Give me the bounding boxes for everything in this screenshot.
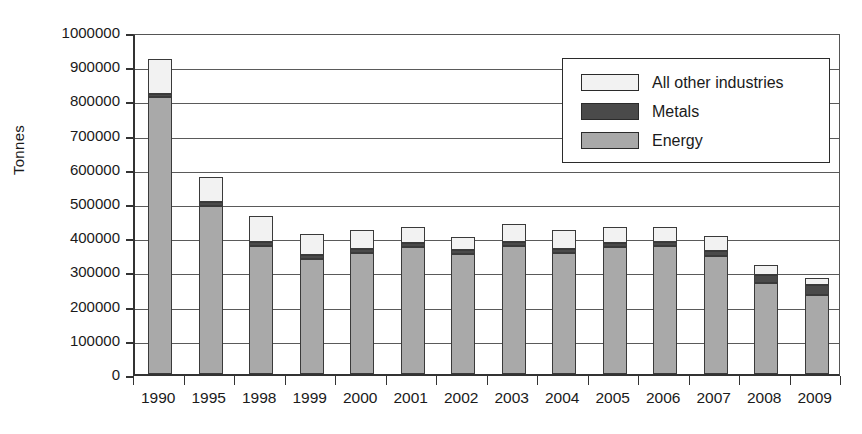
legend-item-metals[interactable]: Metals [581, 97, 829, 126]
bar-segment-energy [350, 253, 374, 374]
x-tick-label-2007: 2007 [689, 389, 740, 407]
x-tick-label-1998: 1998 [234, 389, 285, 407]
bar-segment-metals [350, 249, 374, 253]
bar-segment-all-other-industries [249, 216, 273, 242]
bar-segment-energy [603, 247, 627, 374]
bar-segment-metals [603, 243, 627, 247]
x-tick-mark [285, 376, 286, 385]
x-tick-label-1995: 1995 [184, 389, 235, 407]
bar-segment-all-other-industries [350, 230, 374, 248]
y-tick-mark [126, 205, 133, 207]
x-tick-label-2000: 2000 [335, 389, 386, 407]
x-tick-mark [537, 376, 538, 385]
x-tick-mark [790, 376, 791, 385]
gridline [135, 240, 839, 241]
y-tick-mark [126, 273, 133, 275]
x-tick-label-2002: 2002 [436, 389, 487, 407]
x-tick-mark [689, 376, 690, 385]
x-tick-label-2009: 2009 [790, 389, 841, 407]
y-tick-mark [126, 342, 133, 344]
bar-segment-metals [300, 255, 324, 259]
bar-segment-energy [552, 253, 576, 374]
y-tick-label: 0 [0, 366, 120, 383]
bar-2002 [451, 32, 475, 374]
y-tick-mark [126, 376, 133, 378]
bar-2003 [502, 32, 526, 374]
y-tick-mark [126, 68, 133, 70]
bar-segment-all-other-industries [148, 59, 172, 93]
gridline [135, 343, 839, 344]
bar-segment-all-other-industries [199, 177, 223, 202]
gridline [135, 274, 839, 275]
y-tick-label: 1000000 [0, 24, 120, 41]
bar-segment-energy [704, 256, 728, 374]
x-tick-mark [133, 376, 134, 385]
bar-segment-metals [754, 275, 778, 284]
x-tick-mark [436, 376, 437, 385]
bar-2001 [401, 32, 425, 374]
y-tick-label: 300000 [0, 263, 120, 280]
bar-1990 [148, 32, 172, 374]
legend-label: Metals [652, 103, 699, 121]
bar-segment-metals [451, 250, 475, 254]
x-tick-mark [487, 376, 488, 385]
legend-swatch-icon [581, 103, 639, 120]
bar-segment-energy [148, 97, 172, 374]
y-tick-mark [126, 239, 133, 241]
bar-segment-all-other-industries [805, 278, 829, 285]
bar-segment-metals [199, 202, 223, 206]
y-tick-label: 900000 [0, 58, 120, 75]
x-tick-label-2003: 2003 [487, 389, 538, 407]
x-tick-label-2006: 2006 [638, 389, 689, 407]
y-tick-label: 100000 [0, 332, 120, 349]
bar-segment-all-other-industries [401, 227, 425, 243]
gridline [135, 309, 839, 310]
legend-item-all-other-industries[interactable]: All other industries [581, 68, 829, 97]
y-tick-label: 700000 [0, 127, 120, 144]
bar-segment-all-other-industries [552, 230, 576, 248]
bar-segment-all-other-industries [451, 237, 475, 250]
bar-1995 [199, 32, 223, 374]
legend-swatch-icon [581, 74, 639, 91]
x-tick-mark [638, 376, 639, 385]
y-tick-label: 200000 [0, 298, 120, 315]
bar-segment-energy [754, 283, 778, 374]
x-tick-label-2005: 2005 [588, 389, 639, 407]
bar-segment-metals [805, 285, 829, 295]
bar-segment-metals [502, 242, 526, 246]
bar-segment-metals [653, 242, 677, 246]
bar-segment-energy [653, 246, 677, 374]
x-tick-mark [588, 376, 589, 385]
gridline [135, 172, 839, 173]
x-tick-mark [739, 376, 740, 385]
bar-chart: Tonnes 100000090000080000070000060000050… [0, 0, 862, 434]
y-tick-label: 500000 [0, 195, 120, 212]
bar-2000 [350, 32, 374, 374]
bar-segment-energy [502, 246, 526, 374]
y-tick-mark [126, 171, 133, 173]
legend-label: Energy [652, 132, 703, 150]
bar-segment-metals [249, 242, 273, 246]
bar-segment-metals [552, 249, 576, 253]
y-tick-mark [126, 137, 133, 139]
bar-segment-energy [199, 206, 223, 374]
x-tick-mark [184, 376, 185, 385]
bar-segment-energy [249, 246, 273, 374]
x-tick-label-2008: 2008 [739, 389, 790, 407]
x-tick-mark [840, 376, 841, 385]
bar-segment-all-other-industries [502, 224, 526, 242]
bar-segment-metals [704, 251, 728, 256]
gridline [135, 206, 839, 207]
legend-item-energy[interactable]: Energy [581, 126, 829, 155]
legend-label: All other industries [652, 74, 784, 92]
x-tick-label-1990: 1990 [133, 389, 184, 407]
y-tick-mark [126, 102, 133, 104]
y-tick-mark [126, 308, 133, 310]
bar-segment-metals [148, 94, 172, 97]
y-tick-mark [126, 34, 133, 36]
bar-segment-all-other-industries [653, 227, 677, 242]
bar-segment-energy [300, 259, 324, 374]
bar-segment-all-other-industries [754, 265, 778, 275]
x-tick-label-2004: 2004 [537, 389, 588, 407]
x-tick-label-1999: 1999 [285, 389, 336, 407]
